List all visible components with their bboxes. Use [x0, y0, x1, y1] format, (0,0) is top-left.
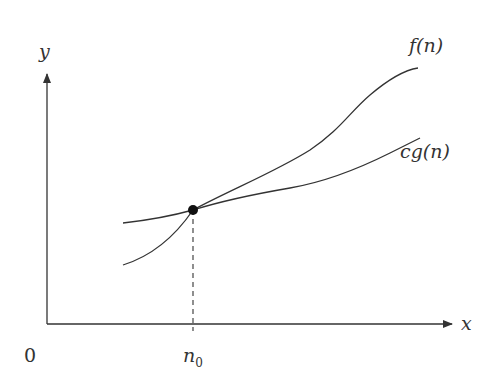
n0-label: n0 [183, 344, 203, 370]
f-curve [123, 68, 418, 265]
cg-curve-label: cg(n) [400, 140, 450, 162]
y-axis-label: y [38, 40, 50, 62]
intersection-point [188, 205, 198, 215]
n0-label-base: n [183, 344, 195, 366]
origin-label: 0 [24, 344, 36, 366]
f-curve-label: f(n) [407, 34, 443, 56]
n0-label-sub: 0 [195, 356, 203, 370]
x-axis-label: x [461, 312, 472, 334]
diagram-canvas: y x 0 n0 f(n) cg(n) [0, 0, 492, 387]
cg-curve [123, 138, 420, 223]
